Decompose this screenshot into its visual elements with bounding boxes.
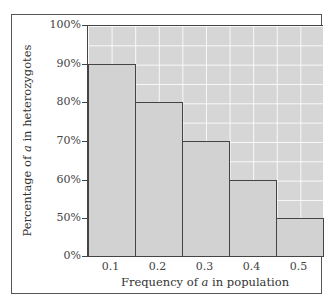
y-tick-label: 0% [64,250,81,262]
bar-0.4 [229,180,277,257]
y-tick-label: 70% [57,135,81,147]
plot-area [87,25,323,257]
y-tick-100 [82,25,87,26]
y-axis-title: Percentage of a in heterozygotes [21,31,34,251]
y-tick-label: 90% [57,58,81,70]
y-tick-0 [82,256,87,257]
bar-0.3 [182,141,230,257]
x-tick-label: 0.3 [181,261,228,273]
y-tick-label: 100% [50,19,81,31]
x-tick-label: 0.1 [87,261,134,273]
bar-0.2 [135,102,183,257]
x-axis-title: Frequency of a in population [87,276,323,289]
bar-0.1 [88,64,136,257]
y-tick-label: 80% [57,96,81,108]
y-tick-80 [82,102,87,103]
x-tick-label: 0.5 [275,261,322,273]
y-tick-70 [82,141,87,142]
y-tick-90 [82,64,87,65]
y-tick-label: 50% [57,212,81,224]
y-tick-60 [82,180,87,181]
x-tick-label: 0.2 [134,261,181,273]
x-tick-label: 0.4 [228,261,275,273]
y-tick-50 [82,218,87,219]
x-axis-line [87,256,323,257]
bar-0.5 [276,218,324,257]
y-tick-label: 60% [57,174,81,186]
